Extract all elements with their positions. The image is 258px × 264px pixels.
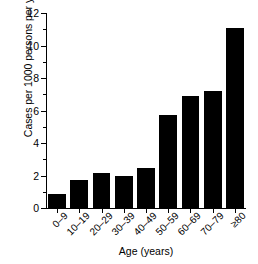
x-axis-tick-label: 70–79 (198, 210, 225, 237)
y-axis-tick-label: 4 (33, 137, 39, 149)
x-axis-tick-label: 40–49 (131, 210, 158, 237)
x-axis-tick-label: 30–39 (109, 210, 136, 237)
bar (159, 115, 177, 208)
bar (48, 194, 66, 208)
y-axis-tick-label: 0 (33, 202, 39, 214)
y-axis-tick (41, 176, 46, 177)
x-axis-tick-label: ≥80 (228, 210, 248, 230)
y-axis-tick-label: 2 (33, 170, 39, 182)
y-axis-line (46, 13, 47, 209)
bar (204, 91, 222, 208)
x-axis-tick-label: 50–59 (154, 210, 181, 237)
bar (182, 96, 200, 208)
y-axis-tick-label: 8 (33, 72, 39, 84)
y-axis-tick (41, 13, 46, 14)
bar-chart-figure: Cases per 1000 persons per year 02468101… (0, 0, 258, 264)
y-axis-tick-label: 6 (33, 105, 39, 117)
y-axis-tick (41, 78, 46, 79)
y-axis-tick (41, 143, 46, 144)
bar (226, 28, 244, 208)
x-axis-tick-label: 20–29 (87, 210, 114, 237)
y-axis-tick-label: 10 (27, 40, 39, 52)
x-axis-tick-label: 10–19 (65, 210, 92, 237)
plot-area: 024681012 (46, 13, 246, 208)
x-axis-tick-labels: 0–910–1920–2930–3940–4950–5960–6970–79≥8… (46, 210, 246, 242)
y-axis-minor-tick (43, 29, 46, 30)
y-axis-minor-tick (43, 159, 46, 160)
y-axis-tick (41, 111, 46, 112)
bar (115, 176, 133, 209)
y-axis-minor-tick (43, 62, 46, 63)
y-axis-tick-label: 12 (27, 7, 39, 19)
bar (137, 168, 155, 208)
y-axis-minor-tick (43, 94, 46, 95)
y-axis-minor-tick (43, 127, 46, 128)
x-axis-tick-label: 60–69 (176, 210, 203, 237)
bar (93, 173, 111, 208)
y-axis-tick (41, 46, 46, 47)
bar (70, 180, 88, 208)
y-axis-minor-tick (43, 192, 46, 193)
x-axis-title: Age (years) (46, 245, 246, 257)
y-axis-tick (41, 208, 46, 209)
